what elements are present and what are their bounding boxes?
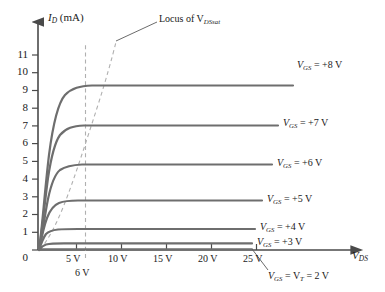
curve-label-vgs-3: VGS = +3 V	[257, 237, 302, 248]
curve-vgs-4	[39, 229, 255, 250]
curve-label-vgs-6: VGS = +6 V	[277, 158, 322, 169]
vgs-4-value: = +4 V	[274, 221, 305, 232]
y-tick-label-2: 2	[12, 208, 28, 219]
vgs-5-value: = +5 V	[281, 193, 312, 204]
vgs-8-value: = +8 V	[311, 59, 342, 70]
curve-label-vgs-vt: VGS = VT = 2 V	[268, 271, 329, 282]
locus-label-sub: DSsat	[204, 18, 220, 25]
x-axis-title-main: V	[352, 249, 359, 261]
curve-label-vgs-7: VGS = +7 V	[283, 118, 328, 129]
axis-y	[32, 22, 38, 250]
y-tick-label-11: 11	[12, 49, 28, 60]
chart-figure: ID (mA) VDS 11 10 9 8 7 6 5 4 3 2 1 0 5 …	[0, 0, 385, 292]
y-axis-title-rest: (mA)	[57, 11, 84, 23]
locus-callout-leader	[116, 22, 157, 41]
y-tick-label-8: 8	[12, 102, 28, 113]
x-axis-title: VDS	[352, 250, 368, 262]
y-tick-label-1: 1	[12, 226, 28, 237]
x-axis-title-sub: DS	[359, 254, 368, 263]
chart-canvas	[0, 0, 385, 292]
curve-label-vgs-8: VGS = +8 V	[297, 60, 342, 71]
y-tick-label-9: 9	[12, 84, 28, 95]
y-tick-label-10: 10	[12, 66, 28, 77]
x-tick-label-15: 15 V	[153, 254, 173, 264]
vgs-6-value: = +6 V	[291, 157, 322, 168]
vgs-3-value: = +3 V	[271, 236, 302, 247]
vt-end: = 2 V	[304, 270, 329, 281]
x-tick-label-20: 20 V	[198, 254, 218, 264]
x-tick-label-10: 10 V	[108, 254, 128, 264]
vgs-7-value: = +7 V	[297, 117, 328, 128]
y-tick-label-4: 4	[12, 173, 28, 184]
curve-label-vgs-5: VGS = +5 V	[267, 194, 312, 205]
y-tick-label-3: 3	[12, 191, 28, 202]
y-tick-label-0: 0	[12, 252, 28, 263]
vt-mid: = V	[282, 270, 300, 281]
y-tick-label-6: 6	[12, 137, 28, 148]
curve-vgs-7	[39, 126, 278, 251]
locus-vdssat-label: Locus of VDSsat	[159, 14, 220, 25]
six-volt-label: 6 V	[75, 268, 90, 278]
y-tick-label-5: 5	[12, 155, 28, 166]
curve-label-vgs-4: VGS = +4 V	[260, 222, 305, 233]
locus-label-main: Locus of V	[159, 13, 204, 24]
x-tick-label-25: 25 V	[243, 254, 263, 264]
x-tick-label-5: 5 V	[66, 254, 81, 264]
y-axis-title: ID (mA)	[48, 12, 84, 24]
y-tick-label-7: 7	[12, 120, 28, 131]
